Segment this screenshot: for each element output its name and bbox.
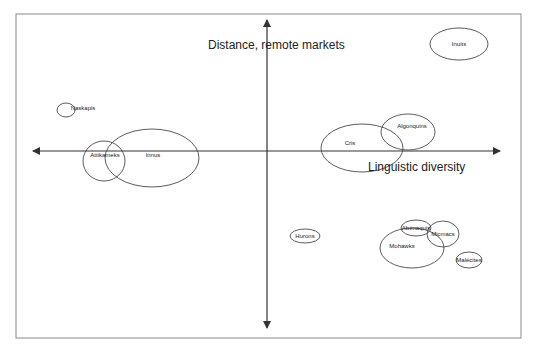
ellipse-innus	[105, 129, 199, 187]
ellipse-algonquins	[381, 114, 435, 150]
label-mohawks: Mohawks	[389, 243, 414, 249]
label-hurons: Hurons	[295, 233, 314, 239]
horizontal-axis-label: Linguistic diversity	[368, 160, 465, 174]
label-algonquins: Algonquins	[397, 123, 427, 129]
label-malecites: Malécites	[456, 257, 481, 263]
label-micmacs: Micmacs	[431, 231, 455, 237]
label-attikameks: Attikameks	[90, 152, 119, 158]
label-abenaquis: Abénaquis	[402, 225, 430, 231]
label-naskapis: Naskapis	[71, 105, 96, 111]
label-cris: Cris	[345, 140, 356, 146]
group-ellipses	[57, 28, 488, 268]
positioning-map	[0, 0, 535, 352]
vertical-axis-label: Distance, remote markets	[208, 38, 345, 52]
diagram-frame	[16, 14, 521, 338]
ellipse-attikameks	[83, 141, 125, 181]
label-inuits: Inuits	[452, 41, 466, 47]
label-innus: Innus	[146, 152, 161, 158]
